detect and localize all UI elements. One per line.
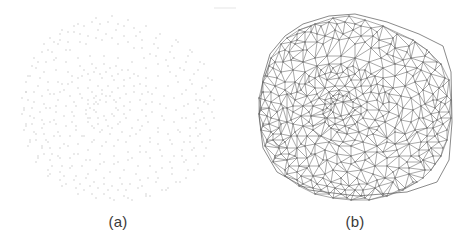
mesh-vertex <box>344 189 346 191</box>
mesh-vertex <box>278 119 280 121</box>
data-point <box>95 95 97 97</box>
data-point <box>197 135 199 137</box>
mesh-vertex <box>272 133 274 135</box>
data-point <box>69 95 71 97</box>
mesh-vertex <box>358 183 360 185</box>
mesh-vertex <box>302 105 304 107</box>
mesh-vertex <box>348 37 350 39</box>
mesh-edge <box>299 72 305 84</box>
mesh-edge <box>297 84 299 92</box>
mesh-edge <box>309 78 315 82</box>
mesh-edge <box>383 182 393 194</box>
mesh-edge <box>335 124 345 126</box>
data-point <box>171 173 173 175</box>
mesh-vertex <box>284 89 286 91</box>
mesh-edge <box>397 150 399 156</box>
data-point <box>21 113 23 115</box>
mesh-edge <box>271 102 281 104</box>
data-point <box>77 193 79 195</box>
data-point <box>101 89 103 91</box>
mesh-edge <box>303 50 307 62</box>
data-point <box>47 169 49 171</box>
data-point <box>199 99 201 101</box>
data-point <box>75 125 77 127</box>
mesh-edge <box>397 104 399 116</box>
mesh-vertex <box>340 193 342 195</box>
mesh-vertex <box>408 143 410 145</box>
mesh-vertex <box>326 159 328 161</box>
mesh-edge <box>359 184 363 190</box>
data-point <box>101 93 103 95</box>
data-point <box>69 135 71 137</box>
mesh-edge <box>413 110 419 118</box>
mesh-edge <box>303 122 309 126</box>
mesh-edge <box>409 162 421 168</box>
mesh-edge <box>297 126 303 136</box>
mesh-vertex <box>300 89 302 91</box>
data-point <box>93 97 95 99</box>
data-point <box>79 33 81 35</box>
mesh-edge <box>391 38 393 44</box>
data-point <box>161 167 163 169</box>
mesh-vertex <box>334 187 336 189</box>
mesh-edge <box>359 62 369 70</box>
mesh-vertex <box>292 123 294 125</box>
data-point <box>111 185 113 187</box>
mesh-edge <box>305 84 315 88</box>
data-point <box>79 65 81 67</box>
data-point <box>55 105 57 107</box>
mesh-edge <box>405 66 417 68</box>
mesh-edge <box>393 76 395 88</box>
data-point <box>195 121 197 123</box>
data-point <box>93 181 95 183</box>
mesh-vertex <box>386 195 388 197</box>
mesh-edge <box>275 78 277 86</box>
data-point <box>117 57 119 59</box>
mesh-vertex <box>436 119 438 121</box>
mesh-edge <box>361 166 375 170</box>
mesh-vertex <box>330 97 332 99</box>
mesh-vertex <box>342 141 344 143</box>
mesh-edge <box>403 52 407 60</box>
mesh-edge <box>395 120 401 128</box>
mesh-vertex <box>364 159 366 161</box>
data-point <box>175 75 177 77</box>
mesh-edge <box>409 142 421 144</box>
mesh-vertex <box>376 145 378 147</box>
mesh-edge <box>315 144 325 150</box>
mesh-edge <box>259 98 265 100</box>
mesh-edge <box>341 190 345 194</box>
mesh-vertex <box>394 63 396 65</box>
data-point <box>129 109 131 111</box>
mesh-edge <box>321 128 331 136</box>
data-point <box>167 65 169 67</box>
data-point <box>29 141 31 143</box>
mesh-vertex <box>334 123 336 125</box>
mesh-vertex <box>314 153 316 155</box>
mesh-vertex <box>314 193 316 195</box>
data-point <box>203 63 205 65</box>
mesh-edge <box>311 144 315 154</box>
data-point <box>129 183 131 185</box>
mesh-vertex <box>426 79 428 81</box>
mesh-vertex <box>378 109 380 111</box>
mesh-edge <box>339 126 345 130</box>
mesh-edge <box>369 48 371 62</box>
mesh-edge <box>307 136 315 144</box>
mesh-edge <box>415 70 421 82</box>
mesh-vertex <box>364 69 366 71</box>
mesh-vertex <box>320 25 322 27</box>
mesh-vertex <box>358 131 360 133</box>
data-point <box>33 101 35 103</box>
data-point <box>95 67 97 69</box>
mesh-edge <box>377 138 387 146</box>
data-point <box>31 65 33 67</box>
data-point <box>75 105 77 107</box>
mesh-edge <box>327 154 337 160</box>
mesh-vertex <box>322 113 324 115</box>
mesh-edge <box>313 184 317 188</box>
mesh-edge <box>293 70 305 72</box>
data-point <box>201 141 203 143</box>
mesh-edge <box>375 152 377 166</box>
mesh-vertex <box>388 101 390 103</box>
